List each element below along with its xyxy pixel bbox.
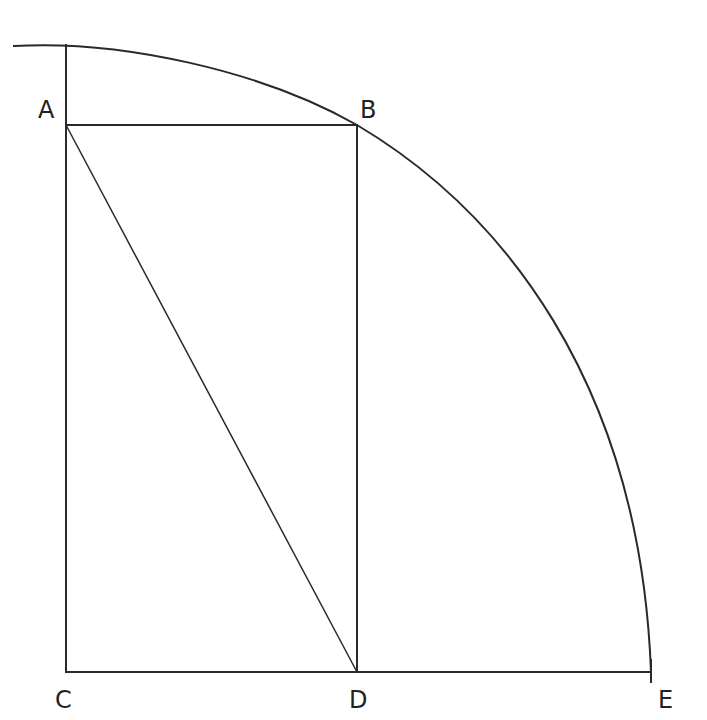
label-D: D (349, 686, 367, 714)
line-AD (66, 125, 357, 672)
label-E: E (658, 686, 673, 714)
arc-curve (14, 45, 651, 672)
label-A: A (38, 96, 55, 124)
geometry-diagram: A B C D E (0, 0, 707, 720)
label-C: C (55, 686, 72, 714)
label-B: B (360, 96, 376, 124)
